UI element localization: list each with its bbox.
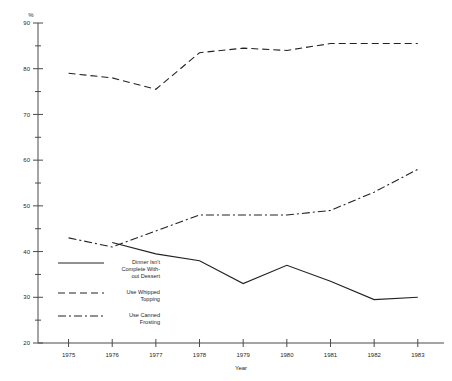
y-tick-label: 50 [23, 203, 30, 209]
series-group [69, 44, 418, 300]
y-tick-label: 20 [23, 340, 30, 346]
legend-label-0: out Dessert [131, 273, 160, 279]
y-tick-label: 60 [23, 157, 30, 163]
legend-label-1: Topping [140, 296, 160, 302]
x-tick-label: 1980 [280, 352, 294, 358]
legend-label-2: Use Canned [129, 312, 160, 318]
x-tick-label: 1979 [237, 352, 251, 358]
y-tick-label: 80 [23, 66, 30, 72]
y-axis-unit-label: % [28, 12, 34, 18]
chart-legend: Dinner Isn'tComplete With-out DessertUse… [58, 259, 160, 325]
series-line-2 [69, 169, 418, 247]
legend-label-0: Dinner Isn't [132, 259, 161, 265]
x-tick-label: 1982 [367, 352, 381, 358]
x-tick-label: 1977 [149, 352, 163, 358]
x-tick-label: 1976 [106, 352, 120, 358]
x-tick-label: 1978 [193, 352, 207, 358]
y-tick-label: 30 [23, 294, 30, 300]
x-tick-group: 197519761977197819791980198119821983 [62, 339, 425, 358]
legend-label-0: Complete With- [121, 266, 160, 272]
series-line-1 [69, 44, 418, 90]
x-tick-label: 1981 [324, 352, 338, 358]
legend-label-2: Frosting [140, 319, 160, 325]
x-axis-title: Year [235, 365, 247, 371]
line-chart: 2030405060708090 19751976197719781979198… [0, 0, 452, 381]
legend-label-1: Use Whipped [126, 289, 160, 295]
y-tick-label: 40 [23, 249, 30, 255]
y-tick-group: 2030405060708090 [23, 20, 43, 346]
y-tick-label: 90 [23, 20, 30, 26]
chart-canvas: 2030405060708090 19751976197719781979198… [0, 0, 452, 381]
y-tick-label: 70 [23, 112, 30, 118]
x-tick-label: 1975 [62, 352, 76, 358]
x-tick-label: 1983 [411, 352, 425, 358]
